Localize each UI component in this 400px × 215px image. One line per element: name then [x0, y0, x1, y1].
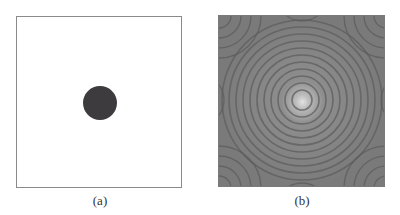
panel-b-image — [218, 15, 385, 187]
dark-circle — [83, 86, 117, 120]
panel-a-image — [16, 16, 182, 188]
caption-b: (b) — [282, 193, 322, 209]
ring-pattern — [219, 16, 385, 187]
caption-a: (a) — [80, 193, 120, 209]
